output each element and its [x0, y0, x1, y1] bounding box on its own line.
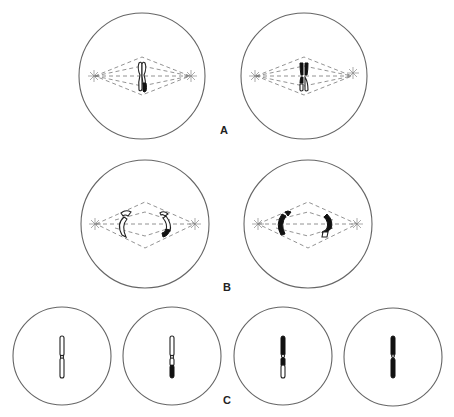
cell-division-diagram [0, 0, 454, 417]
panel-c-cell-2 [123, 307, 221, 405]
chromatid [60, 336, 64, 378]
panel-label-c: C [223, 394, 231, 406]
spindle [258, 202, 357, 248]
panel-c-cell-4 [344, 308, 442, 406]
diagram-stage: A B C [0, 0, 454, 417]
panel-c-cell-3 [234, 307, 332, 405]
chromosome [300, 63, 308, 91]
spindle [256, 57, 352, 95]
chromatid [170, 336, 174, 378]
panel-c-cell-1 [13, 307, 111, 405]
panel-label-b: B [223, 281, 231, 293]
panel-a-cell-right [241, 13, 367, 139]
chromatid [391, 336, 395, 378]
panel-a-cell-left [79, 13, 205, 139]
chromosome [138, 62, 146, 92]
chromatid-right [322, 214, 332, 237]
chromatid [281, 336, 285, 378]
spindle [96, 202, 195, 248]
panel-b-cell-right [244, 160, 372, 288]
panel-label-a: A [220, 124, 228, 136]
panel-b-cell-left [81, 160, 209, 288]
